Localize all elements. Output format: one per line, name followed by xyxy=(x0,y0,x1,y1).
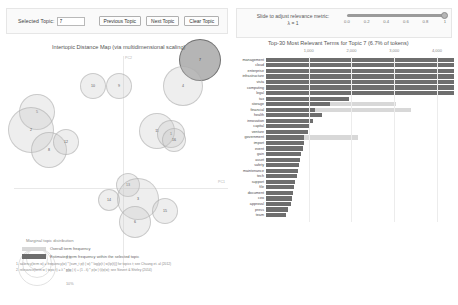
bar-topic-frequency xyxy=(266,130,308,134)
next-topic-button[interactable]: Next Topic xyxy=(146,16,179,26)
bar-term-label: vista xyxy=(256,80,264,84)
bar-topic-frequency xyxy=(266,152,301,156)
topic-bubble-12[interactable]: 12 xyxy=(53,129,79,155)
bar-chart-rows: managementcloudenterpriseinfrastructurev… xyxy=(232,57,456,218)
topic-bubble-6[interactable]: 6 xyxy=(119,206,151,238)
previous-topic-button[interactable]: Previous Topic xyxy=(99,16,141,26)
bar-topic-frequency xyxy=(266,202,291,206)
bar-topic-frequency xyxy=(266,85,454,89)
top-terms-title: Top-30 Most Relevant Terms for Topic 7 (… xyxy=(268,40,409,46)
lambda-tick-0.6: 0.6 xyxy=(403,19,409,24)
bar-topic-frequency xyxy=(266,74,454,78)
bar-topic-frequency xyxy=(266,80,454,84)
bar-term-label: ceo xyxy=(258,196,264,200)
bar-term-label: infrastructure xyxy=(242,74,264,78)
bar-term-label: venture xyxy=(252,130,264,134)
x-tick-4,000: 4,000 xyxy=(432,48,442,53)
bar-topic-frequency xyxy=(266,124,309,128)
bar-topic-frequency xyxy=(266,163,299,167)
grid-line xyxy=(394,57,395,222)
bar-row[interactable]: team xyxy=(232,212,456,218)
bar-term-label: maintenance xyxy=(243,169,264,173)
grid-line xyxy=(309,57,310,222)
pc1-axis-label: PC1 xyxy=(218,180,225,184)
selected-topic-input[interactable] xyxy=(57,17,85,26)
intertopic-map-title: Intertopic Distance Map (via multidimens… xyxy=(52,44,185,50)
grid-line xyxy=(437,57,438,222)
bar-term-label: management xyxy=(242,58,264,62)
legend-label-overall: Overall term frequency xyxy=(50,246,90,251)
lambda-slider-track[interactable] xyxy=(347,14,445,17)
bar-term-label: financial xyxy=(250,108,264,112)
legend-row-topic: Estimated term frequency within the sele… xyxy=(22,254,232,260)
lambda-label-group: Slide to adjust relevance metric: λ = 1 xyxy=(245,13,341,26)
topic-bubble-9[interactable]: 9 xyxy=(106,73,132,99)
topic-bubble-label: 7 xyxy=(180,58,220,62)
bar-term-label: safety xyxy=(254,163,264,167)
bar-topic-frequency xyxy=(266,185,294,189)
bar-chart-x-axis: 1,0002,0003,0004,000 xyxy=(232,48,456,57)
bar-topic-frequency xyxy=(266,141,304,145)
relevance-metric-bar: Slide to adjust relevance metric: λ = 1 … xyxy=(236,8,452,38)
lambda-tick-0.4: 0.4 xyxy=(383,19,389,24)
bar-term-label: team xyxy=(256,213,264,217)
bar-term-label: health xyxy=(254,113,264,117)
bar-term-label: storage xyxy=(252,102,264,106)
topic-bubble-10[interactable]: 10 xyxy=(80,73,106,99)
chart-footnotes: 1. saliency(term w) = frequency(w) * [su… xyxy=(16,262,246,273)
bar-term-label: support xyxy=(252,180,264,184)
bar-topic-frequency xyxy=(266,58,454,62)
topic-bubble-label: 16 xyxy=(163,138,185,142)
topic-bubble-15[interactable]: 15 xyxy=(152,198,178,224)
bar-topic-frequency xyxy=(266,196,292,200)
bar-topic-frequency xyxy=(266,146,303,150)
top-terms-bar-chart[interactable]: 1,0002,0003,0004,000 managementcloudente… xyxy=(232,48,456,300)
lambda-slider[interactable]: 0.00.20.40.60.81 xyxy=(345,14,447,26)
bar-topic-frequency xyxy=(266,158,300,162)
bar-term-label: event xyxy=(255,147,264,151)
lambda-tick-0.8: 0.8 xyxy=(422,19,428,24)
clear-topic-button[interactable]: Clear Topic xyxy=(184,16,219,26)
x-tick-3,000: 3,000 xyxy=(389,48,399,53)
bar-term-label: innovation xyxy=(247,119,264,123)
bar-term-label: approval xyxy=(250,202,264,206)
lambda-tick-1: 1 xyxy=(444,19,446,24)
legend-label-topic: Estimated term frequency within the sele… xyxy=(50,254,139,259)
grid-line xyxy=(351,57,352,222)
bar-term-label: cloud xyxy=(255,63,264,67)
bar-term-label: import xyxy=(254,141,264,145)
marginal-legend-label-10pct: 10% xyxy=(66,282,74,286)
bar-term-label: tax xyxy=(259,97,264,101)
lambda-slider-ticks: 0.00.20.40.60.81 xyxy=(345,19,447,26)
topic-bubble-label: 3 xyxy=(118,197,158,201)
topic-bubble-label: 9 xyxy=(107,84,131,88)
topic-bubble-label: 15 xyxy=(153,209,177,213)
bar-topic-frequency xyxy=(266,174,297,178)
bar-term-label: press xyxy=(255,208,264,212)
bar-term-label: asset xyxy=(255,158,264,162)
legend-swatch-overall xyxy=(22,247,46,252)
lambda-title: Slide to adjust relevance metric: xyxy=(245,13,341,19)
bar-term-label-wrap: team xyxy=(232,212,266,218)
lambda-tick-0.0: 0.0 xyxy=(344,19,350,24)
pyldavis-visualization: Selected Topic: Previous Topic Next Topi… xyxy=(0,0,458,305)
bar-topic-frequency xyxy=(266,191,293,195)
topic-bubble-4[interactable]: 4 xyxy=(163,66,203,106)
bar-topic-frequency xyxy=(266,63,454,67)
bar-term-label: legal xyxy=(256,91,264,95)
bar-topic-frequency xyxy=(266,169,298,173)
topic-bubble-label: 4 xyxy=(164,84,202,88)
x-tick-1,000: 1,000 xyxy=(304,48,314,53)
bar-topic-frequency xyxy=(266,213,286,217)
bar-term-label: computing xyxy=(247,86,264,90)
topic-bubble-label: 14 xyxy=(99,198,119,202)
bar-topic-frequency xyxy=(266,91,454,95)
bar-topic-frequency xyxy=(266,113,322,117)
bar-term-label: government xyxy=(245,135,264,139)
topic-bubble-16[interactable]: 16 xyxy=(162,128,186,152)
bar-topic-frequency xyxy=(266,207,288,211)
topic-bubble-label: 6 xyxy=(120,220,150,224)
footnote-relevance: 2. relevance(term w | topic t) = λ * p(w… xyxy=(16,268,246,274)
topic-bubble-label: 10 xyxy=(81,84,105,88)
bar-topic-frequency xyxy=(266,119,313,123)
